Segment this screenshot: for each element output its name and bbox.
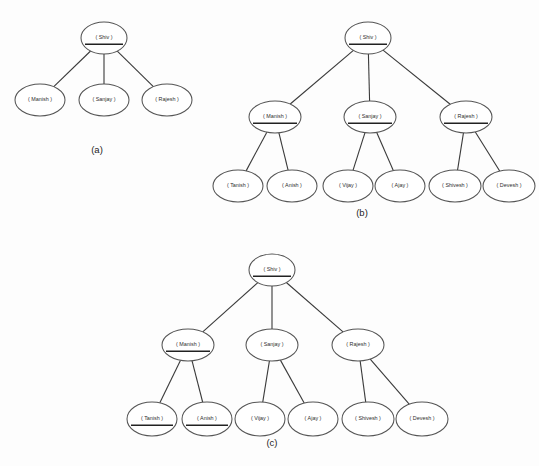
tree-edge bbox=[475, 132, 499, 171]
tree-edge bbox=[279, 133, 288, 170]
diagram-caption-a: (a) bbox=[91, 144, 103, 155]
tree-node-c-rajesh[interactable]: ( Rajesh ) bbox=[332, 329, 384, 361]
tree-node-b-rajesh[interactable]: ( Rajesh ) bbox=[440, 101, 492, 133]
tree-node-c-shivesh[interactable]: ( Shivesh ) bbox=[342, 402, 394, 436]
node-label: ( Tanish ) bbox=[141, 415, 163, 421]
tree-edge bbox=[370, 359, 409, 404]
node-label: ( Sanjay ) bbox=[260, 341, 283, 347]
node-label: ( Shivesh ) bbox=[442, 182, 468, 188]
tree-node-b-tanish[interactable]: ( Tanish ) bbox=[213, 170, 263, 202]
tree-edge bbox=[54, 51, 91, 87]
node-label: ( Anish ) bbox=[282, 182, 302, 188]
tree-diagram-canvas: ( Shiv )( Manish )( Sanjay )( Rajesh )(a… bbox=[0, 0, 539, 466]
node-label: ( Vijay ) bbox=[339, 182, 357, 188]
tree-node-c-manish[interactable]: ( Manish ) bbox=[162, 329, 214, 361]
tree-edge bbox=[353, 133, 365, 171]
tree-edge bbox=[383, 50, 450, 104]
node-label: ( Manish ) bbox=[263, 113, 287, 119]
tree-node-b-anish[interactable]: ( Anish ) bbox=[267, 170, 317, 202]
tree-edge bbox=[246, 132, 267, 171]
tree-node-b-vijay[interactable]: ( Vijay ) bbox=[323, 170, 373, 202]
node-label: ( Rajesh ) bbox=[346, 341, 370, 347]
diagram-caption-b: (b) bbox=[356, 207, 368, 218]
tree-node-a-sanjay[interactable]: ( Sanjay ) bbox=[79, 84, 129, 116]
node-label: ( Shiv ) bbox=[263, 266, 280, 272]
edges-group-a bbox=[54, 51, 154, 87]
node-label: ( Anish ) bbox=[197, 415, 217, 421]
tree-edge bbox=[458, 133, 464, 170]
tree-edge bbox=[160, 360, 181, 403]
tree-node-b-sanjay[interactable]: ( Sanjay ) bbox=[344, 101, 396, 133]
node-label: ( Ajay ) bbox=[392, 182, 409, 188]
tree-diagram-a: ( Shiv )( Manish )( Sanjay )( Rajesh )(a… bbox=[15, 22, 192, 155]
tree-node-c-shiv[interactable]: ( Shiv ) bbox=[249, 254, 295, 286]
node-label: ( Shiv ) bbox=[359, 34, 376, 40]
tree-edge bbox=[280, 360, 304, 403]
tree-edge bbox=[192, 361, 203, 402]
node-label: ( Devesh ) bbox=[410, 415, 435, 421]
tree-node-c-devesh[interactable]: ( Devesh ) bbox=[396, 402, 448, 436]
tree-node-c-anish[interactable]: ( Anish ) bbox=[182, 402, 232, 436]
tree-edge bbox=[117, 51, 153, 87]
tree-edge bbox=[377, 132, 394, 170]
diagrams-layer: ( Shiv )( Manish )( Sanjay )( Rajesh )(a… bbox=[15, 22, 535, 448]
node-label: ( Shiv ) bbox=[95, 34, 112, 40]
node-label: ( Vijay ) bbox=[251, 415, 269, 421]
tree-node-c-vijay[interactable]: ( Vijay ) bbox=[235, 402, 285, 436]
tree-node-b-shiv[interactable]: ( Shiv ) bbox=[345, 22, 391, 54]
node-label: ( Devesh ) bbox=[497, 182, 522, 188]
tree-edge bbox=[290, 50, 353, 104]
tree-edge bbox=[286, 283, 343, 332]
tree-diagram-b: ( Shiv )( Manish )( Sanjay )( Rajesh )( … bbox=[213, 22, 535, 218]
tree-edge bbox=[368, 54, 369, 101]
tree-node-a-manish[interactable]: ( Manish ) bbox=[15, 84, 65, 116]
tree-node-b-shivesh[interactable]: ( Shivesh ) bbox=[429, 170, 481, 202]
node-label: ( Sanjay ) bbox=[92, 96, 115, 102]
tree-node-b-ajay[interactable]: ( Ajay ) bbox=[375, 170, 425, 202]
tree-diagram-c: ( Shiv )( Manish )( Sanjay )( Rajesh )( … bbox=[127, 254, 448, 448]
node-label: ( Ajay ) bbox=[305, 415, 322, 421]
node-label: ( Tanish ) bbox=[227, 182, 249, 188]
tree-edge bbox=[203, 283, 258, 332]
diagram-caption-c: (c) bbox=[266, 437, 277, 448]
tree-edge bbox=[263, 361, 270, 402]
node-label: ( Shivesh ) bbox=[355, 415, 381, 421]
tree-node-c-sanjay[interactable]: ( Sanjay ) bbox=[246, 329, 298, 361]
figure-container: ( Shiv )( Manish )( Sanjay )( Rajesh )(a… bbox=[0, 0, 539, 466]
node-label: ( Manish ) bbox=[176, 341, 200, 347]
tree-edge bbox=[360, 361, 366, 402]
tree-node-b-manish[interactable]: ( Manish ) bbox=[249, 101, 301, 133]
node-label: ( Manish ) bbox=[28, 96, 52, 102]
tree-node-b-devesh[interactable]: ( Devesh ) bbox=[483, 170, 535, 202]
node-label: ( Sanjay ) bbox=[358, 113, 381, 119]
node-label: ( Rajesh ) bbox=[155, 96, 179, 102]
tree-node-c-tanish[interactable]: ( Tanish ) bbox=[127, 402, 177, 436]
tree-node-a-shiv[interactable]: ( Shiv ) bbox=[81, 22, 127, 54]
tree-node-c-ajay[interactable]: ( Ajay ) bbox=[288, 402, 338, 436]
node-label: ( Rajesh ) bbox=[454, 113, 478, 119]
tree-node-a-rajesh[interactable]: ( Rajesh ) bbox=[142, 84, 192, 116]
